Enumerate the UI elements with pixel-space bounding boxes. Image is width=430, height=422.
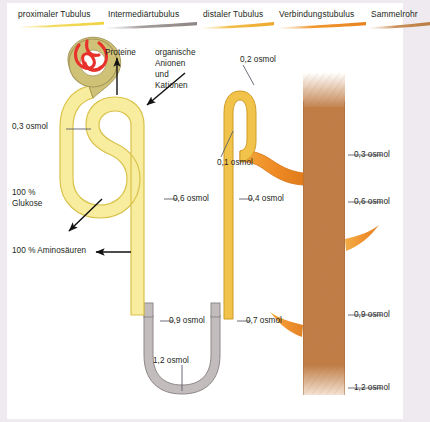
label-osmol-0-9-duct: 0,9 osmol (354, 310, 390, 321)
label-osmol-0-7-asc: 0,7 osmol (246, 316, 282, 327)
label-kationen: Kationen (155, 81, 188, 92)
distal-tubule (224, 91, 256, 319)
label-osmol-0-6-prox: 0,6 osmol (173, 194, 209, 205)
figure-panel: proximaler Tubulus Intermediärtubulus (7, 3, 403, 419)
label-organische: organische (155, 48, 196, 59)
collecting-duct (303, 73, 345, 395)
proximal-tubule (60, 86, 144, 315)
label-anionen: Anionen (155, 59, 185, 70)
label-osmol-1-2-loop: 1,2 osmol (153, 356, 189, 367)
label-osmol-0-6-duct: 0,6 osmol (354, 197, 390, 208)
label-osmol-0-1-distal: 0,1 osmol (217, 158, 253, 169)
label-glucose-100: 100 % (12, 188, 35, 199)
label-osmol-0-9-desc: 0,9 osmol (169, 316, 205, 327)
label-und: und (155, 70, 169, 81)
glomerulus (68, 37, 121, 98)
label-aminoacids-100: 100 % Aminosäuren (12, 246, 86, 257)
label-osmol-0-4-dist: 0,4 osmol (248, 194, 284, 205)
nephron-artwork (7, 3, 403, 419)
label-osmol-0-3-duct: 0,3 osmol (354, 150, 390, 161)
label-glucose-word: Glukose (12, 199, 42, 210)
label-osmol-0-2-distal: 0,2 osmol (240, 55, 276, 66)
label-osmol-0-3-left: 0,3 osmol (12, 122, 48, 133)
label-osmol-1-2-duct: 1,2 osmol (354, 383, 390, 394)
label-proteine: Proteine (105, 48, 136, 59)
